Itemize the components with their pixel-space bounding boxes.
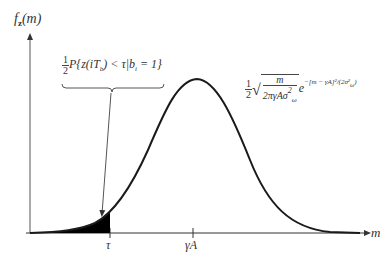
x-axis-label: m — [371, 225, 380, 241]
half-fraction: 12 — [62, 55, 69, 76]
pdf-diagram — [0, 0, 392, 263]
y-axis-label: fz(m) — [14, 11, 41, 28]
tick-label-tau: τ — [106, 238, 110, 253]
tick-label-gammaA: γA — [185, 238, 197, 253]
tail-probability-annotation: 12P{z(iTb) < τ|bi = 1} — [62, 55, 162, 76]
annotation-pointer-arrow — [102, 93, 111, 214]
formula-half: 12 — [245, 79, 252, 100]
y-label-arg: (m) — [22, 11, 41, 26]
sqrt-content: m2πγAσ2ω — [261, 74, 299, 105]
pdf-formula: 12√m2πγAσ2ωe−[m − γA]²/(2σ²ω) — [245, 74, 357, 105]
annotation-underbrace — [62, 84, 164, 92]
